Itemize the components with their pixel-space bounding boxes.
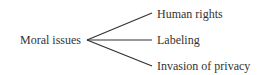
branch-node-labeling: Labeling xyxy=(157,33,200,47)
root-node: Moral issues xyxy=(20,33,81,47)
branch-node-human-rights: Human rights xyxy=(157,7,223,21)
branch-line-invasion-of-privacy xyxy=(87,40,152,66)
branch-node-invasion-of-privacy: Invasion of privacy xyxy=(157,59,250,73)
branch-line-human-rights xyxy=(87,13,152,40)
